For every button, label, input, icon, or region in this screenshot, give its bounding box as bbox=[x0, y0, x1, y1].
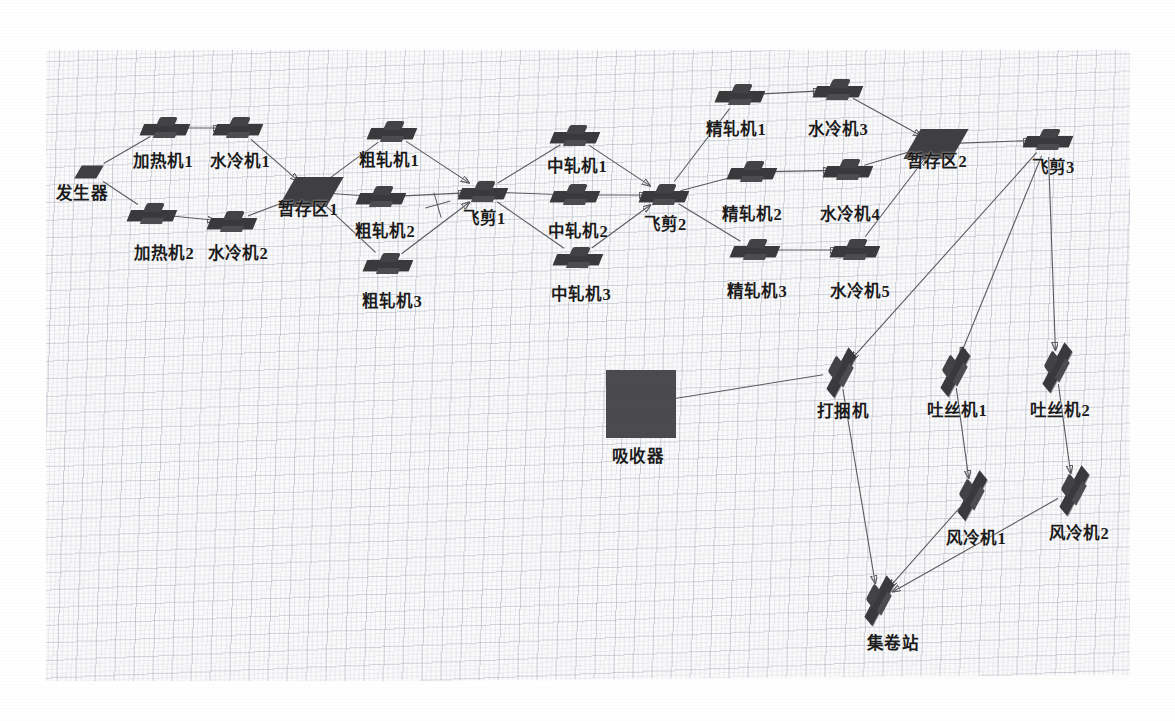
machine-icon bbox=[215, 117, 261, 139]
machine-icon bbox=[369, 121, 415, 143]
node-heater1[interactable] bbox=[142, 117, 188, 139]
machine-base bbox=[843, 254, 867, 260]
machine-base bbox=[563, 199, 587, 205]
label-finish1: 精轧机1 bbox=[706, 116, 766, 140]
label-generator: 发生器 bbox=[56, 180, 108, 204]
label-cooler1: 水冷机1 bbox=[210, 148, 270, 172]
label-laying2: 吐丝机2 bbox=[1030, 397, 1090, 421]
machine-base bbox=[743, 254, 767, 260]
machine-icon bbox=[142, 117, 188, 139]
page-margin-right bbox=[1130, 0, 1175, 721]
edge-shear3-to-laying2 bbox=[1049, 157, 1056, 350]
edge-generator-to-heater2 bbox=[103, 181, 138, 204]
label-cooler3: 水冷机3 bbox=[808, 116, 868, 140]
machine-base bbox=[1036, 144, 1060, 150]
node-heater2[interactable] bbox=[129, 203, 175, 225]
machine-base bbox=[380, 136, 404, 142]
machine-base bbox=[369, 201, 393, 207]
label-finish2: 精轧机2 bbox=[722, 201, 782, 225]
machine-base bbox=[226, 132, 250, 138]
node-finish3[interactable] bbox=[732, 239, 778, 261]
machine-base bbox=[740, 176, 764, 182]
machine-base bbox=[566, 262, 590, 268]
machine-base bbox=[563, 140, 587, 146]
machine-base bbox=[652, 199, 676, 205]
machine-icon bbox=[641, 184, 687, 206]
machine-icon bbox=[1025, 129, 1071, 151]
edge-buffer2-to-shear3 bbox=[953, 141, 1031, 144]
node-shear1[interactable] bbox=[460, 181, 506, 203]
machine-icon bbox=[717, 84, 763, 106]
edge-finish1-to-cooler3 bbox=[757, 91, 821, 94]
node-cooler1[interactable] bbox=[215, 117, 261, 139]
label-heater1: 加热机1 bbox=[133, 148, 193, 172]
machine-icon bbox=[825, 159, 871, 181]
label-finish3: 精轧机3 bbox=[727, 278, 787, 302]
label-cooler4: 水冷机4 bbox=[820, 201, 880, 225]
page-margin-top bbox=[0, 0, 1175, 50]
label-absorber: 吸收器 bbox=[612, 443, 664, 467]
generator-icon bbox=[74, 166, 104, 179]
node-finish1[interactable] bbox=[717, 84, 763, 106]
page-margin-bottom bbox=[0, 681, 1175, 721]
machine-base bbox=[220, 226, 244, 232]
machine-base bbox=[376, 268, 400, 274]
machine-icon bbox=[358, 186, 404, 208]
machine-icon bbox=[365, 253, 411, 275]
machine-base bbox=[140, 218, 164, 224]
label-coilstation: 集卷站 bbox=[867, 630, 919, 654]
node-laying2[interactable] bbox=[1033, 356, 1079, 378]
node-shear3[interactable] bbox=[1025, 129, 1071, 151]
label-shear1: 飞剪1 bbox=[463, 205, 506, 229]
node-rough3[interactable] bbox=[365, 253, 411, 275]
node-absorber[interactable] bbox=[606, 370, 676, 438]
label-laying1: 吐丝机1 bbox=[927, 397, 987, 421]
label-shear2: 飞剪2 bbox=[644, 211, 687, 235]
label-aircool2: 风冷机2 bbox=[1049, 520, 1109, 544]
machine-icon bbox=[552, 184, 598, 206]
node-shear2[interactable] bbox=[641, 184, 687, 206]
node-aircool2[interactable] bbox=[1050, 479, 1096, 501]
node-cooler4[interactable] bbox=[825, 159, 871, 181]
label-buffer1: 暂存区1 bbox=[278, 196, 338, 220]
node-cooler5[interactable] bbox=[832, 239, 878, 261]
machine-icon bbox=[815, 79, 861, 101]
edge-shear3-to-laying1 bbox=[960, 156, 1041, 356]
machine-icon bbox=[129, 203, 175, 225]
node-generator[interactable] bbox=[78, 166, 100, 179]
node-aircool1[interactable] bbox=[948, 484, 994, 506]
machine-icon bbox=[832, 239, 878, 261]
node-coilstation[interactable] bbox=[855, 589, 901, 611]
label-rough3: 粗轧机3 bbox=[362, 288, 422, 312]
absorber-icon bbox=[606, 370, 676, 438]
node-rough2[interactable] bbox=[358, 186, 404, 208]
node-bundler[interactable] bbox=[817, 361, 863, 383]
node-cooler3[interactable] bbox=[815, 79, 861, 101]
machine-base bbox=[836, 174, 860, 180]
node-cooler2[interactable] bbox=[209, 211, 255, 233]
node-rough1[interactable] bbox=[369, 121, 415, 143]
label-cooler2: 水冷机2 bbox=[208, 240, 268, 264]
label-buffer2: 暂存区2 bbox=[907, 148, 967, 172]
node-finish2[interactable] bbox=[729, 161, 775, 183]
label-mid2: 中轧机2 bbox=[548, 218, 608, 242]
machine-base bbox=[826, 94, 850, 100]
machine-icon bbox=[552, 125, 598, 147]
machine-icon bbox=[555, 247, 601, 269]
label-bundler: 打捆机 bbox=[817, 398, 869, 422]
machine-icon bbox=[209, 211, 255, 233]
label-mid1: 中轧机1 bbox=[547, 153, 607, 177]
node-mid1[interactable] bbox=[552, 125, 598, 147]
machine-base bbox=[153, 132, 177, 138]
node-mid2[interactable] bbox=[552, 184, 598, 206]
label-heater2: 加热机2 bbox=[134, 240, 194, 264]
label-rough2: 粗轧机2 bbox=[355, 218, 415, 242]
page-margin-left bbox=[0, 0, 46, 721]
edge-shear1-to-mid2 bbox=[500, 193, 558, 195]
label-aircool1: 风冷机1 bbox=[946, 525, 1006, 549]
label-cooler5: 水冷机5 bbox=[830, 278, 890, 302]
node-mid3[interactable] bbox=[555, 247, 601, 269]
label-mid3: 中轧机3 bbox=[551, 281, 611, 305]
machine-icon bbox=[729, 161, 775, 183]
node-laying1[interactable] bbox=[931, 360, 977, 382]
